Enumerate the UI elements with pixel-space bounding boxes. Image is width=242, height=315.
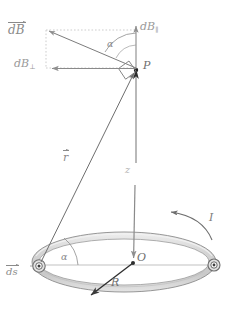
right-angle-marker — [119, 61, 137, 79]
label-dB-perpendicular: dB⊥ — [14, 58, 36, 71]
figure-root: dB dB∥ dB⊥ α P r z I α ds O R — [0, 0, 242, 315]
current-direction-arrow — [171, 212, 212, 240]
ring-inner-edge — [39, 239, 209, 285]
label-dB-parallel: dB∥ — [140, 21, 158, 34]
label-alpha-loop: α — [61, 252, 67, 262]
label-radius-R: R — [111, 277, 119, 288]
label-ds-vector: ds — [6, 265, 18, 277]
current-loop-ring — [32, 232, 216, 292]
dB-perpendicular-subscript: ⊥ — [29, 63, 35, 71]
label-r-vector: r — [63, 150, 68, 163]
physics-diagram-svg — [0, 0, 242, 315]
label-current-I: I — [209, 212, 213, 223]
dB-parallel-subscript: ∥ — [155, 26, 158, 34]
current-element-left-marker — [33, 260, 45, 272]
label-axis-z: z — [125, 165, 130, 175]
dB-parallel-text: dB — [140, 20, 155, 33]
z-axis — [134, 71, 136, 258]
label-point-O: O — [137, 252, 146, 263]
label-dB-vector: dB — [8, 22, 25, 36]
ring-outer-edge — [32, 232, 216, 292]
dB-perpendicular-text: dB — [14, 57, 29, 70]
z-axis-lower — [134, 185, 135, 258]
current-element-right-marker — [208, 259, 220, 271]
label-point-P: P — [143, 60, 150, 71]
alpha-top-arc-inner — [116, 45, 136, 58]
ds-vector-text: ds — [6, 265, 18, 277]
dB-vector-text: dB — [8, 22, 25, 36]
r-vector-text: r — [63, 150, 68, 163]
label-alpha-top: α — [107, 39, 113, 49]
